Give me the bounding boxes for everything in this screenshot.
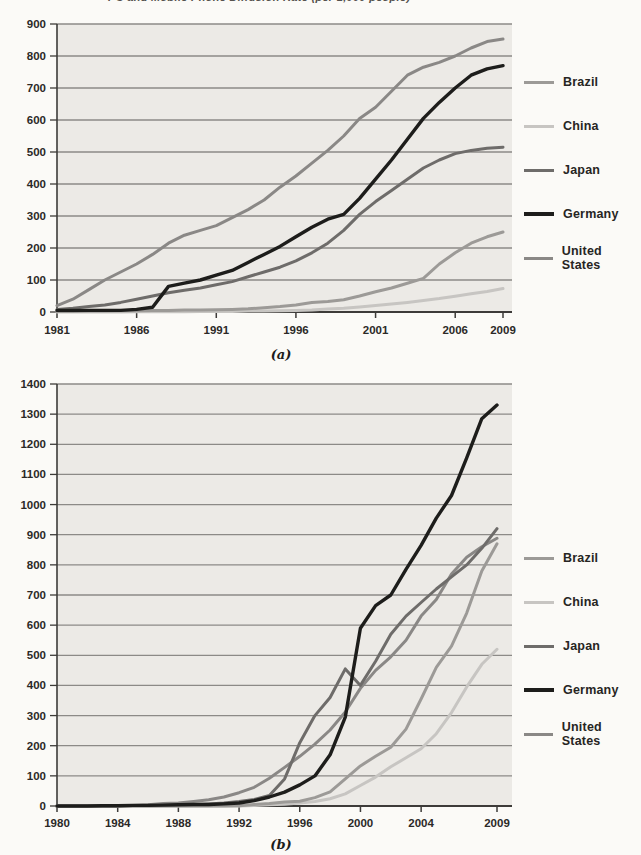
y-tick-label-b-900: 900 — [27, 529, 46, 541]
x-tick-label-a-2006: 2006 — [442, 324, 468, 336]
page-title-clipped: PC and Mobile Phone Diffusion Rate (per … — [0, 0, 641, 7]
y-tick-label-b-1100: 1100 — [21, 468, 46, 480]
legend-a: BrazilChinaJapanGermanyUnited States — [524, 74, 641, 266]
x-tick-label-a-2001: 2001 — [363, 324, 389, 336]
x-tick-label-b-1996: 1996 — [287, 817, 313, 829]
legend-swatch-united_states — [524, 257, 553, 260]
legend-label-united_states: United States — [562, 244, 641, 272]
legend-label-japan: Japan — [563, 163, 600, 177]
legend-swatch-china — [524, 125, 554, 128]
legend-b: BrazilChinaJapanGermanyUnited States — [524, 550, 641, 742]
y-tick-label-b-800: 800 — [27, 559, 46, 571]
y-tick-label-b-1400: 1400 — [20, 378, 46, 390]
legend-swatch-japan — [524, 645, 554, 648]
y-tick-label-b-700: 700 — [27, 589, 46, 601]
y-tick-label-b-500: 500 — [27, 649, 46, 661]
legend-item-germany: Germany — [524, 682, 641, 698]
y-tick-label-b-200: 200 — [27, 740, 46, 752]
x-tick-label-b-1992: 1992 — [226, 817, 252, 829]
x-tick-label-b-1980: 1980 — [44, 817, 70, 829]
legend-swatch-united_states — [524, 733, 553, 736]
y-tick-label-b-300: 300 — [27, 710, 46, 722]
y-tick-label-b-0: 0 — [40, 800, 46, 812]
y-tick-label-a-100: 100 — [27, 274, 46, 286]
y-tick-label-b-1300: 1300 — [20, 408, 46, 420]
legend-swatch-china — [524, 601, 554, 604]
x-tick-label-b-1984: 1984 — [105, 817, 131, 829]
y-tick-label-a-200: 200 — [27, 242, 46, 254]
legend-item-brazil: Brazil — [524, 74, 641, 90]
y-tick-label-b-100: 100 — [27, 770, 46, 782]
y-tick-label-b-1200: 1200 — [20, 438, 46, 450]
legend-item-china: China — [524, 594, 641, 610]
x-tick-label-a-1981: 1981 — [44, 324, 70, 336]
x-tick-label-b-2000: 2000 — [348, 817, 374, 829]
legend-label-germany: Germany — [563, 683, 619, 697]
y-tick-label-a-800: 800 — [27, 50, 46, 62]
y-tick-label-b-600: 600 — [27, 619, 46, 631]
legend-item-japan: Japan — [524, 162, 641, 178]
legend-label-brazil: Brazil — [563, 551, 598, 565]
y-tick-label-a-900: 900 — [27, 18, 46, 30]
legend-item-brazil: Brazil — [524, 550, 641, 566]
page-title-text: PC and Mobile Phone Diffusion Rate (per … — [108, 0, 410, 3]
y-tick-label-a-400: 400 — [27, 178, 46, 190]
legend-item-germany: Germany — [524, 206, 641, 222]
legend-label-china: China — [563, 595, 599, 609]
legend-item-united_states: United States — [524, 250, 641, 266]
caption-a: (a) — [57, 347, 505, 362]
y-tick-label-b-1000: 1000 — [20, 499, 46, 511]
x-tick-label-a-2009: 2009 — [490, 324, 516, 336]
x-tick-label-b-2004: 2004 — [408, 817, 434, 829]
x-tick-label-b-1988: 1988 — [166, 817, 192, 829]
legend-swatch-brazil — [524, 81, 554, 84]
y-tick-label-b-400: 400 — [27, 679, 46, 691]
y-tick-label-a-300: 300 — [27, 210, 46, 222]
legend-swatch-japan — [524, 169, 554, 172]
y-tick-label-a-600: 600 — [27, 114, 46, 126]
x-tick-label-a-1991: 1991 — [203, 324, 229, 336]
legend-label-germany: Germany — [563, 207, 619, 221]
legend-label-united_states: United States — [562, 720, 641, 748]
y-tick-label-a-500: 500 — [27, 146, 46, 158]
x-tick-label-b-2009: 2009 — [484, 817, 510, 829]
x-tick-label-a-1996: 1996 — [283, 324, 309, 336]
legend-label-japan: Japan — [563, 639, 600, 653]
legend-item-china: China — [524, 118, 641, 134]
legend-item-united_states: United States — [524, 726, 641, 742]
x-tick-label-a-1986: 1986 — [124, 324, 150, 336]
legend-swatch-brazil — [524, 557, 554, 560]
legend-item-japan: Japan — [524, 638, 641, 654]
caption-b: (b) — [57, 837, 505, 852]
legend-swatch-germany — [524, 212, 554, 216]
legend-label-brazil: Brazil — [563, 75, 598, 89]
y-tick-label-a-700: 700 — [27, 82, 46, 94]
legend-label-china: China — [563, 119, 599, 133]
y-tick-label-a-0: 0 — [40, 306, 46, 318]
legend-swatch-germany — [524, 688, 554, 692]
scanned-page: PC and Mobile Phone Diffusion Rate (per … — [0, 0, 641, 855]
